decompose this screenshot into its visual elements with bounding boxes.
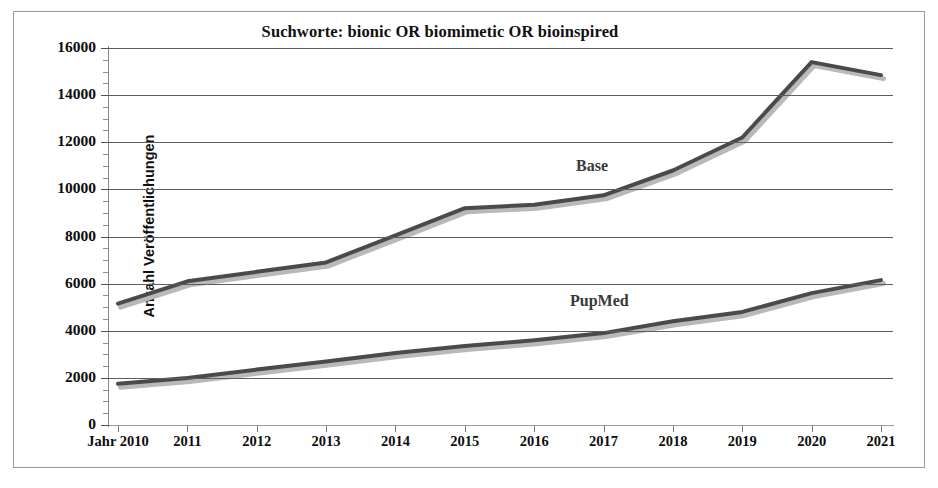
y-tick-14000 (101, 95, 109, 96)
gridline-8000 (108, 237, 893, 238)
gridline-12000 (108, 142, 893, 143)
x-tick-0 (118, 425, 119, 432)
x-tick-1 (187, 425, 188, 432)
y-minor-tick (103, 201, 108, 202)
y-tick-label-16000: 16000 (38, 38, 96, 56)
gridline-4000 (108, 331, 893, 332)
y-minor-tick (103, 130, 108, 131)
y-tick-10000 (101, 189, 109, 190)
gridline-16000 (108, 48, 893, 49)
y-tick-label-0: 0 (38, 415, 96, 433)
y-minor-tick (103, 319, 108, 320)
chart-title: Suchworte: bionic OR biomimetic OR bioin… (180, 22, 700, 42)
x-tick-11 (881, 425, 882, 432)
y-minor-tick (103, 119, 108, 120)
y-minor-tick (103, 178, 108, 179)
series-line-base (118, 62, 881, 304)
y-minor-tick (103, 248, 108, 249)
y-minor-tick (103, 307, 108, 308)
y-minor-tick (103, 154, 108, 155)
y-minor-tick (103, 343, 108, 344)
y-tick-8000 (101, 237, 109, 238)
y-minor-tick (103, 272, 108, 273)
y-minor-tick (103, 401, 108, 402)
x-tick-6 (534, 425, 535, 432)
x-tick-label-11: 2021 (831, 433, 931, 450)
gridline-6000 (108, 284, 893, 285)
y-tick-label-14000: 14000 (38, 85, 96, 103)
y-tick-12000 (101, 142, 109, 143)
series-label-pupmed: PupMed (570, 292, 629, 310)
y-tick-label-10000: 10000 (38, 179, 96, 197)
series-label-base: Base (576, 157, 608, 175)
x-tick-2 (257, 425, 258, 432)
series-shadow-base (121, 66, 884, 308)
gridline-0 (108, 425, 893, 426)
y-minor-tick (103, 107, 108, 108)
plot-area: Anzahl Veröffentlichungen (108, 48, 893, 425)
y-minor-tick (103, 366, 108, 367)
y-minor-tick (103, 390, 108, 391)
x-tick-7 (604, 425, 605, 432)
y-tick-16000 (101, 48, 109, 49)
figure-container: Suchworte: bionic OR biomimetic OR bioin… (0, 0, 938, 488)
y-minor-tick (103, 225, 108, 226)
y-minor-tick (103, 72, 108, 73)
y-tick-label-6000: 6000 (38, 274, 96, 292)
series-line-pupmed (118, 280, 881, 384)
y-minor-tick (103, 83, 108, 84)
y-tick-2000 (101, 378, 109, 379)
y-tick-label-12000: 12000 (38, 132, 96, 150)
y-minor-tick (103, 413, 108, 414)
x-tick-8 (673, 425, 674, 432)
y-tick-label-2000: 2000 (38, 368, 96, 386)
y-tick-0 (101, 425, 109, 426)
y-minor-tick (103, 60, 108, 61)
x-tick-10 (812, 425, 813, 432)
y-minor-tick (103, 295, 108, 296)
y-minor-tick (103, 260, 108, 261)
gridline-14000 (108, 95, 893, 96)
x-tick-3 (326, 425, 327, 432)
y-minor-tick (103, 354, 108, 355)
y-tick-label-8000: 8000 (38, 227, 96, 245)
y-tick-4000 (101, 331, 109, 332)
y-minor-tick (103, 166, 108, 167)
y-minor-tick (103, 213, 108, 214)
x-tick-9 (742, 425, 743, 432)
y-tick-label-4000: 4000 (38, 321, 96, 339)
gridline-10000 (108, 189, 893, 190)
gridline-2000 (108, 378, 893, 379)
x-tick-4 (395, 425, 396, 432)
x-tick-5 (465, 425, 466, 432)
y-tick-6000 (101, 284, 109, 285)
